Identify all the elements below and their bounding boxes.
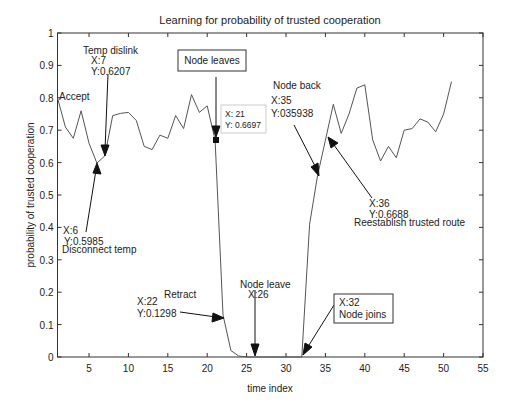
svg-text:Disconnect temp: Disconnect temp <box>62 244 137 255</box>
svg-text:X:26: X:26 <box>248 289 269 300</box>
x-axis-label: time index <box>247 383 293 394</box>
datatip-marker[interactable] <box>213 137 219 143</box>
y-tick-label: 0.3 <box>40 255 54 266</box>
x-tick-label: 10 <box>123 363 135 374</box>
x-tick-label: 25 <box>241 363 253 374</box>
x-tick-label: 20 <box>202 363 214 374</box>
annotation-node-leave: Node leave X:26 <box>240 279 291 300</box>
annotation-disconnect-temp: X:6 Y:0.5985 Disconnect temp <box>62 225 137 255</box>
svg-text:Reestablish trusted route: Reestablish trusted route <box>354 217 466 228</box>
svg-text:X: 21: X: 21 <box>225 109 245 119</box>
y-tick-label: 1 <box>48 28 54 39</box>
y-tick-label: 0.7 <box>40 125 54 136</box>
annotation-node-back: Node back X:35 Y:035938 <box>271 80 322 119</box>
svg-text:X:32: X:32 <box>339 297 360 308</box>
x-tick-label: 55 <box>477 363 489 374</box>
annotation-reestablish: X:36 Y:0.6688 Reestablish trusted route <box>354 198 466 228</box>
y-tick-label: 0.5 <box>40 190 54 201</box>
svg-text:Node leaves: Node leaves <box>184 55 240 66</box>
annotation-temp-dislink: Temp dislink X:7 Y:0.6207 <box>83 45 139 77</box>
annotation-retract: Retract X:22 Y:0.1298 <box>137 289 196 319</box>
chart-title: Learning for probability of trusted coop… <box>159 14 380 26</box>
x-tick-label: 15 <box>162 363 174 374</box>
tick-labels: 51015202530354045505500.10.20.30.40.50.6… <box>40 28 489 374</box>
chart-figure: 51015202530354045505500.10.20.30.40.50.6… <box>0 0 511 403</box>
x-tick-label: 5 <box>86 363 92 374</box>
y-tick-label: 0 <box>48 352 54 363</box>
svg-text:X:7: X:7 <box>91 55 106 66</box>
datatip-box: X: 21 Y: 0.6697 <box>221 105 266 133</box>
axes-box <box>58 33 484 357</box>
x-tick-label: 30 <box>280 363 292 374</box>
svg-text:Retract: Retract <box>164 289 196 300</box>
y-tick-label: 0.8 <box>40 93 54 104</box>
x-tick-label: 35 <box>320 363 332 374</box>
svg-text:X:35: X:35 <box>271 95 292 106</box>
y-tick-label: 0.4 <box>40 222 54 233</box>
svg-text:Y:0.1298: Y:0.1298 <box>137 308 177 319</box>
svg-text:Y:0.6207: Y:0.6207 <box>91 66 131 77</box>
y-axis-label: probability of trusted cooperation <box>25 122 36 267</box>
svg-text:Node joins: Node joins <box>339 309 386 320</box>
axis-ticks <box>58 33 484 357</box>
svg-text:X:22: X:22 <box>137 296 158 307</box>
svg-text:Node back: Node back <box>273 80 322 91</box>
x-tick-label: 50 <box>438 363 450 374</box>
svg-text:X:36: X:36 <box>369 198 390 209</box>
x-tick-label: 40 <box>359 363 371 374</box>
annotation-node-joins: X:32 Node joins <box>334 294 393 323</box>
annotation-node-leaves: Node leaves <box>178 50 246 71</box>
annotation-accept: Accept <box>59 91 90 102</box>
y-tick-label: 0.6 <box>40 158 54 169</box>
svg-text:X:6: X:6 <box>63 225 78 236</box>
y-tick-label: 0.1 <box>40 320 54 331</box>
y-tick-label: 0.2 <box>40 287 54 298</box>
line-chart: 51015202530354045505500.10.20.30.40.50.6… <box>0 0 511 403</box>
svg-text:Y: 0.6697: Y: 0.6697 <box>225 120 261 130</box>
x-tick-label: 45 <box>399 363 411 374</box>
svg-text:Y:035938: Y:035938 <box>271 108 314 119</box>
y-tick-label: 0.9 <box>40 60 54 71</box>
